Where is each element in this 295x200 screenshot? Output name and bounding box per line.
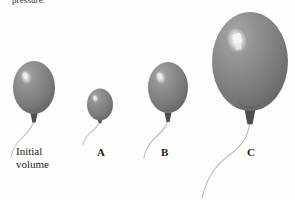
balloon-c: [202, 12, 288, 198]
balloon-figure: pressure. Initial volume A B C: [0, 0, 295, 200]
balloon-knot-icon: [164, 112, 171, 122]
balloon-icon: [212, 12, 288, 111]
balloon-a: [83, 89, 113, 146]
initial-volume-label-line1: Initial: [16, 145, 49, 158]
initial-volume-label-line2: volume: [16, 158, 49, 171]
top-caption-fragment: pressure.: [12, 0, 45, 5]
balloon-label-a: A: [97, 146, 105, 158]
balloon-icon: [148, 62, 188, 113]
balloon-icon: [87, 89, 113, 121]
balloon-label-c: C: [247, 146, 255, 158]
balloon-initial: [11, 61, 55, 157]
balloon-b: [144, 62, 188, 158]
balloon-knot-icon: [245, 110, 256, 125]
balloon-string-icon: [83, 123, 100, 145]
balloon-string-icon: [202, 124, 250, 198]
initial-volume-label: Initial volume: [16, 145, 49, 171]
balloon-icon: [13, 61, 55, 114]
balloon-label-b: B: [161, 146, 168, 158]
